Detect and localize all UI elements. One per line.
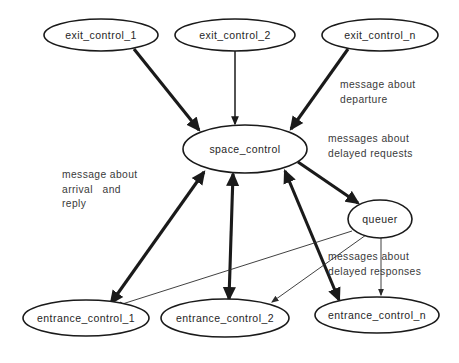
edge-label-messages-about-delayed-responses: messages about delayed responses [328,250,421,279]
node-label-exit-control-1: exit_control_1 [65,29,137,41]
node-exit-control-n[interactable]: exit_control_n [322,19,438,51]
node-label-entrance-control-2: entrance_control_2 [176,312,274,324]
edge-label-messages-about-delayed-requests: messages about delayed requests [328,132,413,161]
node-entrance-control-n[interactable]: entrance_control_n [315,297,439,333]
node-entrance-control-1[interactable]: entrance_control_1 [23,300,149,336]
node-exit-control-1[interactable]: exit_control_1 [44,19,158,51]
edge-queuer-to-entrance-control-1 [116,231,352,306]
node-label-entrance-control-n: entrance_control_n [328,309,426,321]
node-entrance-control-2[interactable]: entrance_control_2 [161,299,289,337]
edge-exit-control-1-to-space-control [134,49,199,130]
node-queuer[interactable]: queuer [348,200,412,238]
node-space-control[interactable]: space_control [183,125,307,173]
node-label-queuer: queuer [362,213,397,225]
node-exit-control-2[interactable]: exit_control_2 [175,19,295,51]
node-label-entrance-control-1: entrance_control_1 [37,312,135,324]
edge-entrance-control-2-space-control [229,174,233,299]
node-label-space-control: space_control [209,143,280,155]
diagram-canvas: exit_control_1 exit_control_2 exit_contr… [0,0,459,363]
edge-label-message-about-departure: message about departure [340,78,416,107]
node-label-exit-control-n: exit_control_n [344,29,416,41]
edge-label-message-about-arrival-and-reply: message about arrival and reply [62,168,138,212]
edge-entrance-control-n-space-control [285,171,339,300]
node-label-exit-control-2: exit_control_2 [199,29,271,41]
edge-space-control-to-queuer [298,162,358,203]
